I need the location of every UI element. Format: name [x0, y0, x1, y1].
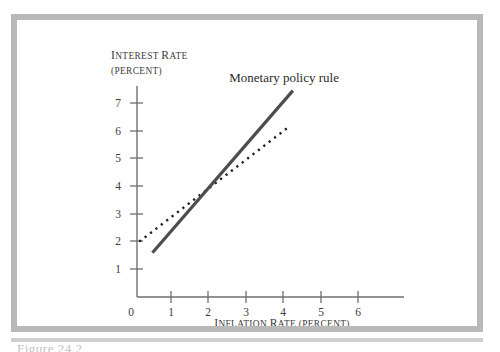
x-tick-label-5: 5: [318, 306, 324, 318]
x-tick-label-1: 1: [168, 306, 174, 318]
y-axis-title-line1: INTEREST RATE: [111, 49, 188, 62]
figure-canvas: INTEREST RATE (PERCENT) 1 2 3 4 5 6 7: [17, 20, 477, 326]
y-tick-label-3: 3: [115, 208, 121, 220]
x-tick-label-2: 2: [205, 306, 211, 318]
series-reference-dotted: [139, 127, 289, 242]
monetary-policy-rule-chart: INTEREST RATE (PERCENT) 1 2 3 4 5 6 7: [17, 20, 477, 326]
y-tick-label-7: 7: [115, 97, 121, 109]
figure-caption-clipped: Figure 24.2: [17, 341, 217, 352]
y-tick-label-2: 2: [115, 235, 121, 247]
x-tick-label-0: 0: [128, 306, 134, 318]
y-tick-label-4: 4: [115, 180, 121, 192]
series-annotation-label: Monetary policy rule: [229, 70, 339, 85]
x-tick-label-4: 4: [280, 306, 286, 318]
y-tick-label-5: 5: [115, 152, 121, 164]
x-tick-label-3: 3: [243, 306, 249, 318]
series-monetary-policy-rule: [152, 91, 292, 253]
figure-frame: INTEREST RATE (PERCENT) 1 2 3 4 5 6 7: [11, 14, 483, 332]
y-tick-label-6: 6: [115, 125, 121, 137]
x-tick-label-6: 6: [355, 306, 361, 318]
y-tick-label-1: 1: [115, 263, 121, 275]
y-axis-title-line2: (PERCENT): [111, 66, 162, 77]
x-axis-title: INFLATION RATE (PERCENT): [214, 317, 350, 326]
